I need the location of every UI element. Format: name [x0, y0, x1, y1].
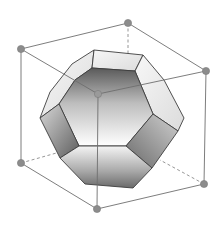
vertex-top-right [202, 67, 209, 74]
hidden-edge-back-right [160, 160, 204, 184]
cube-edge-bottom-right [97, 184, 204, 209]
truncated-octahedron [40, 50, 184, 188]
vertex-bottom-left [17, 159, 24, 166]
vertex-top-left [17, 45, 24, 52]
truncated-octahedron-diagram [0, 0, 221, 229]
vertex-bottom-right [200, 180, 207, 187]
hidden-edge-back-left [21, 152, 60, 163]
cube-edge-right-vertical [204, 71, 206, 184]
vertex-top-front [94, 90, 101, 97]
vertex-bottom-front [93, 205, 100, 212]
vertex-top-back [124, 19, 131, 26]
cube-edge-top-left [21, 23, 128, 49]
face-top-square [92, 50, 143, 71]
